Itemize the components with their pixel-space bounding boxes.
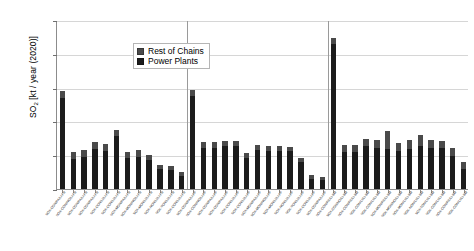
bar-22 bbox=[298, 158, 303, 189]
bar-segment-rest-of-chains-36 bbox=[450, 148, 455, 155]
bar-segment-power-plants-26 bbox=[342, 152, 347, 189]
bar-5 bbox=[114, 130, 119, 189]
y-axis-title-subscript: 2 bbox=[33, 102, 39, 105]
bar-segment-power-plants-2 bbox=[81, 157, 86, 189]
bar-segment-power-plants-10 bbox=[168, 170, 173, 189]
bar-35 bbox=[439, 141, 444, 189]
legend-label-rest-of-chains: Rest of Chains bbox=[148, 47, 204, 56]
bar-2 bbox=[81, 150, 86, 189]
y-axis-title-base: SO bbox=[28, 106, 38, 118]
bar-32 bbox=[407, 140, 412, 189]
bar-segment-power-plants-18 bbox=[255, 150, 260, 189]
plot-area: Rest of Chains Power Plants bbox=[56, 21, 468, 190]
bar-13 bbox=[201, 142, 206, 189]
legend-item-rest-of-chains: Rest of Chains bbox=[137, 46, 204, 56]
legend: Rest of Chains Power Plants bbox=[133, 43, 210, 69]
bar-segment-rest-of-chains-31 bbox=[396, 143, 401, 152]
bar-segment-power-plants-3 bbox=[92, 149, 97, 189]
y-axis-title: SO2 [kt / year (2020)] bbox=[28, 0, 38, 157]
bar-segment-power-plants-33 bbox=[418, 146, 423, 189]
bar-segment-power-plants-0 bbox=[60, 98, 65, 189]
bar-4 bbox=[103, 144, 108, 189]
bar-segment-rest-of-chains-1 bbox=[71, 152, 76, 159]
bar-segment-power-plants-1 bbox=[71, 159, 76, 189]
bar-11 bbox=[179, 172, 184, 189]
bar-1 bbox=[71, 152, 76, 190]
bar-segment-rest-of-chains-35 bbox=[439, 141, 444, 149]
bar-19 bbox=[266, 146, 271, 189]
bar-segment-power-plants-4 bbox=[103, 151, 108, 189]
bar-segment-rest-of-chains-27 bbox=[352, 145, 357, 152]
bar-34 bbox=[428, 140, 433, 189]
bar-segment-power-plants-29 bbox=[374, 148, 379, 189]
bar-25 bbox=[331, 38, 336, 189]
legend-swatch-power-plants bbox=[137, 58, 144, 65]
bar-24 bbox=[320, 177, 325, 189]
bar-segment-power-plants-35 bbox=[439, 148, 444, 189]
bar-segment-power-plants-11 bbox=[179, 176, 184, 189]
bar-0 bbox=[60, 91, 65, 189]
bar-segment-power-plants-37 bbox=[461, 169, 466, 189]
bar-12 bbox=[190, 90, 195, 189]
bar-segment-power-plants-23 bbox=[309, 179, 314, 189]
bar-28 bbox=[363, 139, 368, 189]
bar-segment-power-plants-24 bbox=[320, 180, 325, 189]
bar-segment-power-plants-19 bbox=[266, 151, 271, 189]
bar-36 bbox=[450, 148, 455, 189]
bar-segment-power-plants-30 bbox=[385, 149, 390, 189]
bar-segment-rest-of-chains-4 bbox=[103, 144, 108, 151]
bar-33 bbox=[418, 135, 423, 189]
bar-6 bbox=[125, 152, 130, 189]
bar-segment-power-plants-13 bbox=[201, 148, 206, 189]
x-axis-tick-labels: SOX-CON/PA/LI-FBSOX-CON/NO/LI-FBSOX-CON/… bbox=[56, 191, 468, 251]
bar-segment-rest-of-chains-30 bbox=[385, 131, 390, 149]
y-axis-title-rest: [kt / year (2020)] bbox=[28, 36, 38, 102]
bar-segment-power-plants-9 bbox=[157, 169, 162, 189]
bar-27 bbox=[352, 145, 357, 189]
bar-segment-rest-of-chains-3 bbox=[92, 142, 97, 149]
bar-29 bbox=[374, 140, 379, 189]
so2-stacked-bar-chart: SO2 [kt / year (2020)] 05001000150020002… bbox=[0, 0, 474, 251]
bar-37 bbox=[461, 162, 466, 189]
bar-segment-rest-of-chains-34 bbox=[428, 140, 433, 148]
bar-20 bbox=[277, 146, 282, 189]
bar-segment-power-plants-6 bbox=[125, 158, 130, 189]
bar-segment-power-plants-14 bbox=[212, 148, 217, 189]
bar-segment-power-plants-15 bbox=[222, 146, 227, 189]
bar-30 bbox=[385, 131, 390, 189]
bar-segment-power-plants-12 bbox=[190, 96, 195, 189]
bar-segment-power-plants-28 bbox=[363, 146, 368, 189]
bar-16 bbox=[233, 141, 238, 189]
group-divider-1 bbox=[328, 21, 329, 189]
bar-segment-rest-of-chains-33 bbox=[418, 135, 423, 145]
bar-segment-power-plants-21 bbox=[287, 151, 292, 189]
bar-segment-rest-of-chains-2 bbox=[81, 150, 86, 157]
bar-segment-power-plants-16 bbox=[233, 146, 238, 189]
bar-segment-rest-of-chains-26 bbox=[342, 145, 347, 152]
bar-segment-rest-of-chains-7 bbox=[136, 150, 141, 157]
bar-17 bbox=[244, 153, 249, 189]
legend-item-power-plants: Power Plants bbox=[137, 56, 204, 66]
bar-segment-power-plants-7 bbox=[136, 157, 141, 189]
bar-segment-rest-of-chains-28 bbox=[363, 139, 368, 147]
legend-swatch-rest-of-chains bbox=[137, 48, 144, 55]
bar-18 bbox=[255, 145, 260, 189]
bar-segment-rest-of-chains-32 bbox=[407, 140, 412, 149]
bar-23 bbox=[309, 175, 314, 189]
bar-segment-power-plants-27 bbox=[352, 152, 357, 189]
bar-3 bbox=[92, 142, 97, 189]
bar-segment-power-plants-34 bbox=[428, 148, 433, 189]
bar-segment-power-plants-31 bbox=[396, 151, 401, 189]
bar-segment-power-plants-32 bbox=[407, 149, 412, 189]
bar-segment-power-plants-20 bbox=[277, 151, 282, 189]
bar-segment-power-plants-22 bbox=[298, 162, 303, 189]
bar-segment-rest-of-chains-29 bbox=[374, 140, 379, 148]
bar-7 bbox=[136, 150, 141, 189]
bar-14 bbox=[212, 142, 217, 189]
bar-26 bbox=[342, 145, 347, 189]
legend-label-power-plants: Power Plants bbox=[148, 57, 198, 66]
bar-segment-power-plants-17 bbox=[244, 158, 249, 189]
bar-segment-rest-of-chains-0 bbox=[60, 91, 65, 98]
bar-series-container bbox=[57, 21, 468, 189]
bar-31 bbox=[396, 143, 401, 189]
